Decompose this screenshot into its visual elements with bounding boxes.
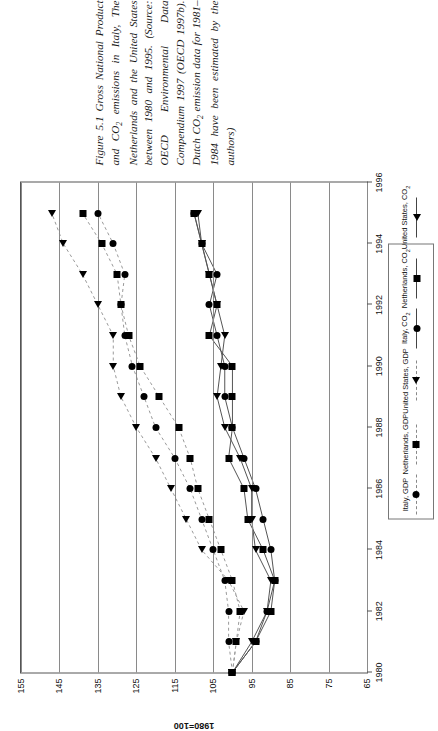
data-point bbox=[225, 454, 232, 461]
triangle-marker-icon bbox=[217, 362, 225, 369]
triangle-marker-icon bbox=[213, 393, 221, 400]
x-tick-label: 1994 bbox=[374, 233, 384, 253]
square-marker-icon bbox=[156, 393, 163, 400]
data-point bbox=[187, 454, 194, 461]
data-point bbox=[240, 485, 247, 492]
triangle-marker-icon bbox=[412, 377, 420, 384]
square-marker-icon bbox=[117, 301, 124, 308]
data-point bbox=[48, 209, 56, 216]
data-point bbox=[252, 546, 260, 553]
x-tick-mark bbox=[367, 304, 372, 305]
data-point bbox=[236, 454, 244, 461]
legend-sample bbox=[411, 360, 422, 400]
gridline-y bbox=[213, 182, 214, 672]
triangle-marker-icon bbox=[109, 362, 117, 369]
triangle-marker-icon bbox=[167, 485, 175, 492]
x-tick-label: 1982 bbox=[374, 601, 384, 621]
figure-page: 1980=100 6575859510511512513514515519801… bbox=[0, 0, 438, 731]
legend-item-5[interactable]: United States, CO2 bbox=[389, 185, 433, 249]
data-point bbox=[110, 240, 117, 247]
legend-item-3[interactable]: Italy, CO2 bbox=[389, 308, 433, 348]
data-point bbox=[263, 607, 271, 614]
legend-marker bbox=[413, 324, 420, 331]
caption-sub-1: 2 bbox=[115, 121, 124, 125]
triangle-marker-icon bbox=[263, 607, 271, 614]
gridline-y bbox=[252, 182, 253, 672]
triangle-marker-icon bbox=[248, 485, 256, 492]
triangle-marker-icon bbox=[248, 638, 256, 645]
triangle-marker-icon bbox=[221, 424, 229, 431]
data-point bbox=[156, 393, 163, 400]
y-tick-label: 155 bbox=[16, 678, 26, 693]
triangle-marker-icon bbox=[232, 638, 240, 645]
circle-marker-icon bbox=[214, 270, 221, 277]
legend-item-0[interactable]: Italy, GDP bbox=[389, 474, 433, 514]
triangle-marker-icon bbox=[48, 209, 56, 216]
triangle-marker-icon bbox=[413, 214, 421, 221]
triangle-marker-icon bbox=[79, 270, 87, 277]
square-marker-icon bbox=[229, 424, 236, 431]
triangle-marker-icon bbox=[132, 424, 140, 431]
square-marker-icon bbox=[137, 362, 144, 369]
square-marker-icon bbox=[260, 546, 267, 553]
data-point bbox=[125, 332, 132, 339]
legend-item-label: Netherlands, CO2 bbox=[400, 249, 411, 308]
data-point bbox=[114, 270, 121, 277]
data-point bbox=[229, 424, 236, 431]
legend-item-2[interactable]: United States, GDP bbox=[389, 348, 433, 413]
data-point bbox=[205, 270, 213, 277]
series-lines bbox=[21, 182, 367, 672]
series-line-4 bbox=[194, 213, 275, 672]
data-point bbox=[132, 424, 140, 431]
circle-marker-icon bbox=[152, 424, 159, 431]
legend-item-label: United States, GDP bbox=[401, 348, 410, 413]
data-point bbox=[79, 209, 86, 216]
data-point bbox=[187, 485, 194, 492]
x-tick-mark bbox=[367, 426, 372, 427]
legend-item-1[interactable]: Netherlands, GDP bbox=[389, 413, 433, 474]
x-tick-mark bbox=[367, 671, 372, 672]
x-tick-mark bbox=[367, 242, 372, 243]
data-point bbox=[221, 332, 229, 339]
x-tick-mark bbox=[367, 365, 372, 366]
data-point bbox=[206, 515, 213, 522]
data-point bbox=[109, 362, 117, 369]
data-point bbox=[260, 515, 267, 522]
legend-marker bbox=[413, 214, 421, 221]
data-point bbox=[225, 577, 233, 584]
square-marker-icon bbox=[206, 332, 213, 339]
circle-marker-icon bbox=[206, 301, 213, 308]
series-line-5 bbox=[198, 213, 271, 672]
triangle-marker-icon bbox=[236, 454, 244, 461]
x-tick-label: 1988 bbox=[374, 417, 384, 437]
data-point bbox=[248, 485, 256, 492]
triangle-marker-icon bbox=[228, 669, 236, 676]
plot-area: 6575859510511512513514515519801982198419… bbox=[20, 181, 368, 673]
data-point bbox=[217, 546, 224, 553]
data-point bbox=[229, 393, 236, 400]
data-point bbox=[213, 301, 221, 308]
square-marker-icon bbox=[413, 275, 420, 282]
data-point bbox=[198, 240, 206, 247]
legend-item-label: Italy, CO2 bbox=[400, 312, 411, 344]
data-point bbox=[240, 607, 248, 614]
data-point bbox=[152, 454, 160, 461]
circle-marker-icon bbox=[260, 515, 267, 522]
y-tick-label: 75 bbox=[324, 678, 334, 688]
series-line-1 bbox=[83, 213, 241, 672]
data-point bbox=[210, 546, 217, 553]
data-point bbox=[137, 362, 144, 369]
legend-item-label: Italy, GDP bbox=[401, 477, 410, 511]
circle-marker-icon bbox=[187, 485, 194, 492]
square-marker-icon bbox=[98, 240, 105, 247]
legend-item-4[interactable]: Netherlands, CO2 bbox=[389, 249, 433, 308]
data-point bbox=[171, 454, 178, 461]
square-marker-icon bbox=[229, 362, 236, 369]
data-point bbox=[228, 669, 236, 676]
square-marker-icon bbox=[125, 332, 132, 339]
legend-sample bbox=[411, 424, 422, 464]
triangle-marker-icon bbox=[194, 209, 202, 216]
data-point bbox=[182, 515, 190, 522]
y-tick-label: 145 bbox=[54, 678, 64, 693]
x-tick-mark bbox=[367, 487, 372, 488]
